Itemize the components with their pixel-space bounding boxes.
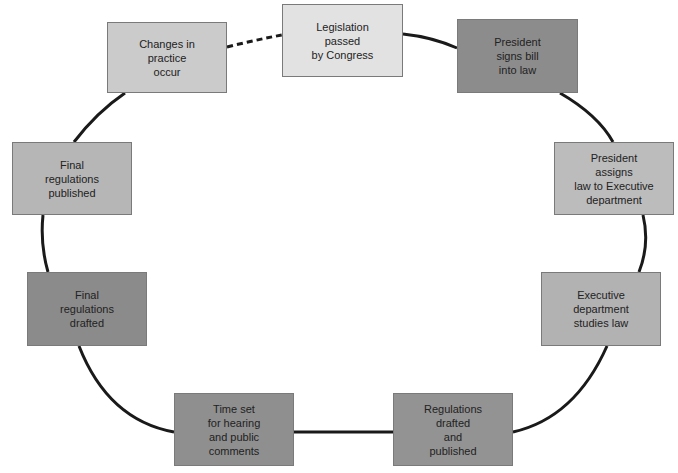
node-executive-studies-law: Executive department studies law <box>541 272 661 346</box>
edge-president-assigns-to-executive <box>639 215 646 272</box>
node-time-set-hearing: Time set for hearing and public comments <box>174 393 294 466</box>
edge-president-signs-to-assigns <box>560 93 613 142</box>
edge-time-set-to-final-drafted <box>79 346 174 432</box>
node-changes-in-practice: Changes in practice occur <box>107 22 227 93</box>
node-final-regulations-drafted: Final regulations drafted <box>27 272 147 346</box>
edge-changes-to-legislation-dashed <box>227 35 282 47</box>
node-legislation-passed: Legislation passed by Congress <box>282 4 403 77</box>
edge-final-published-to-changes <box>74 93 125 142</box>
node-final-regulations-published: Final regulations published <box>12 142 132 215</box>
edge-legislation-to-president-signs <box>403 34 457 48</box>
edge-final-drafted-to-final-published <box>42 215 48 272</box>
node-regulations-drafted-published: Regulations drafted and published <box>393 393 513 466</box>
node-president-assigns-law: President assigns law to Executive depar… <box>554 142 674 215</box>
legislative-process-cycle-diagram: Legislation passed by Congress President… <box>0 0 678 473</box>
edge-executive-to-regulations <box>513 346 607 432</box>
node-president-signs-bill: President signs bill into law <box>457 19 578 93</box>
